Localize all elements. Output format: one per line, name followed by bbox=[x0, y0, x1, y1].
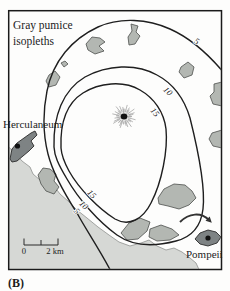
urban-patch bbox=[121, 218, 150, 240]
vent-dot bbox=[121, 114, 128, 120]
urban-patch bbox=[209, 130, 222, 148]
urban-patch bbox=[61, 61, 68, 67]
map-contents bbox=[9, 20, 222, 269]
map-title-line2: isopleths bbox=[13, 35, 54, 48]
urban-patch bbox=[149, 225, 179, 241]
sea bbox=[9, 147, 199, 270]
urban-patch bbox=[86, 37, 105, 54]
isopleth-5-label-top: 5 bbox=[193, 36, 203, 47]
urban-patch bbox=[210, 82, 222, 106]
isopleth-map: Gray pumice isopleths Herculaneum Pompei… bbox=[0, 0, 230, 291]
herculaneum-site bbox=[10, 131, 37, 162]
map-title-line1: Gray pumice bbox=[13, 19, 73, 32]
herculaneum-patch bbox=[10, 131, 37, 162]
scale-zero-label: 0 bbox=[22, 246, 26, 256]
herculaneum-label: Herculaneum bbox=[3, 118, 63, 130]
scale-max-label: 2 km bbox=[46, 246, 64, 256]
urban-patch bbox=[128, 24, 140, 45]
pompeii-site bbox=[195, 230, 221, 246]
herculaneum-dot bbox=[15, 143, 20, 148]
volcano-symbol bbox=[112, 105, 135, 128]
urban-patch bbox=[158, 184, 196, 209]
urban-patch bbox=[179, 62, 194, 78]
pompeii-label: Pompeii bbox=[186, 248, 223, 260]
figure-panel: Gray pumice isopleths Herculaneum Pompei… bbox=[0, 0, 230, 291]
isopleth-15-contour bbox=[61, 84, 166, 222]
pompeii-arrow bbox=[180, 215, 212, 223]
panel-label: (B) bbox=[8, 276, 24, 290]
pompeii-dot bbox=[205, 235, 210, 240]
isopleth-15-label-bottom: 15 bbox=[85, 187, 99, 201]
isopleth-15-label-top: 15 bbox=[148, 105, 162, 119]
